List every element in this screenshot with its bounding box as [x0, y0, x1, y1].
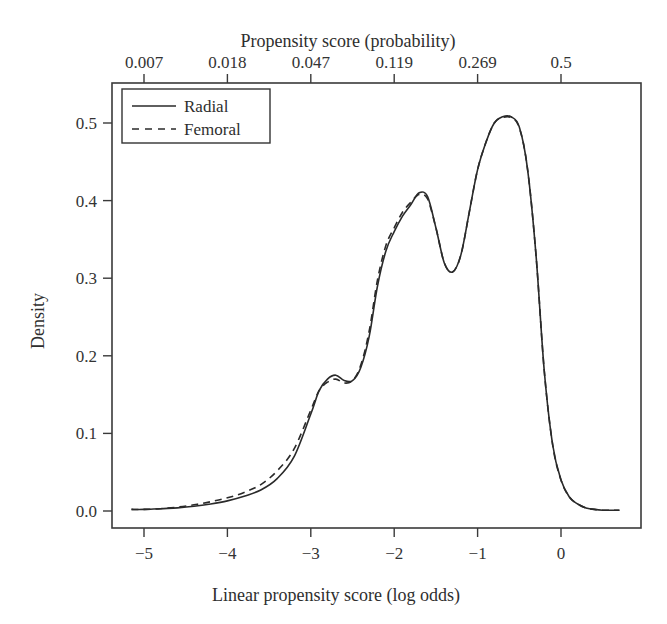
y-tick-label: 0.1: [76, 424, 97, 443]
x2-tick-label: 0.047: [292, 53, 331, 72]
curve-radial: [132, 116, 620, 511]
y-axis-title: Density: [28, 293, 48, 349]
density-chart: −5−4−3−2−10 0.0070.0180.0470.1190.2690.5…: [0, 0, 667, 624]
x-tick-label: −2: [385, 544, 403, 563]
top-axis-title: Propensity score (probability): [241, 31, 456, 52]
curve-femoral: [132, 117, 620, 511]
y-tick-label: 0.0: [76, 502, 97, 521]
x2-tick-label: 0.269: [458, 53, 496, 72]
x-tick-label: 0: [557, 544, 566, 563]
y-tick-label: 0.2: [76, 347, 97, 366]
x2-tick-label: 0.5: [550, 53, 571, 72]
legend-label-radial: Radial: [184, 97, 229, 116]
legend: Radial Femoral: [122, 89, 270, 143]
y-tick-label: 0.4: [76, 192, 98, 211]
x-axis-top: 0.0070.0180.0470.1190.2690.5: [125, 53, 572, 83]
x-tick-label: −3: [302, 544, 320, 563]
x2-tick-label: 0.007: [125, 53, 164, 72]
plot-frame: [112, 83, 641, 528]
x2-tick-label: 0.119: [375, 53, 413, 72]
density-curves: [132, 116, 620, 511]
y-axis-left: 0.00.10.20.30.40.5: [76, 114, 112, 521]
legend-label-femoral: Femoral: [184, 120, 241, 139]
y-tick-label: 0.5: [76, 114, 97, 133]
x-tick-label: −4: [218, 544, 237, 563]
plot-border: [112, 83, 641, 528]
x-axis-bottom: −5−4−3−2−10: [135, 528, 565, 563]
y-tick-label: 0.3: [76, 269, 97, 288]
x-tick-label: −1: [469, 544, 487, 563]
x-tick-label: −5: [135, 544, 153, 563]
x2-tick-label: 0.018: [208, 53, 246, 72]
bottom-axis-title: Linear propensity score (log odds): [212, 585, 460, 606]
